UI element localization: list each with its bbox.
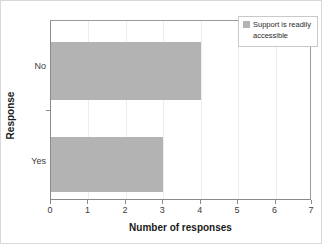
xtick-label-7: 7 (301, 205, 321, 215)
legend-label: Support is readily accessible (253, 20, 314, 42)
xtick-mark-4 (200, 200, 201, 204)
xtick-label-6: 6 (265, 205, 285, 215)
xtick-mark-3 (162, 200, 163, 204)
ytick-label-no: No (15, 61, 46, 71)
xtick-label-2: 2 (115, 205, 135, 215)
plot-area (50, 20, 311, 200)
xtick-label-4: 4 (190, 205, 210, 215)
xtick-mark-7 (311, 200, 312, 204)
ytick-label-yes: Yes (15, 156, 46, 166)
ytick-mark-middle (46, 110, 50, 111)
xtick-label-3: 3 (152, 205, 172, 215)
bar-no (51, 42, 201, 100)
gridline-5 (238, 21, 239, 199)
gridline-6 (276, 21, 277, 199)
legend-swatch-icon (243, 21, 250, 28)
xtick-mark-5 (237, 200, 238, 204)
xtick-mark-0 (50, 200, 51, 204)
xtick-mark-6 (275, 200, 276, 204)
legend: Support is readily accessible (238, 16, 318, 47)
gridline-4 (201, 21, 202, 199)
xtick-mark-2 (125, 200, 126, 204)
bar-chart-figure: 0 1 2 3 4 5 6 7 Number of responses No Y… (0, 0, 322, 244)
xtick-label-1: 1 (77, 205, 97, 215)
xtick-mark-1 (87, 200, 88, 204)
x-axis-title: Number of responses (50, 222, 311, 233)
y-axis-title: Response (5, 26, 16, 206)
bar-yes (51, 137, 163, 192)
xtick-label-5: 5 (227, 205, 247, 215)
xtick-label-0: 0 (40, 205, 60, 215)
